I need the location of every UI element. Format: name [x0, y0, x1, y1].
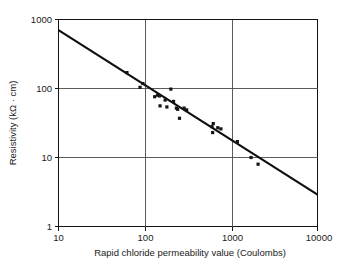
x-tick-label-100: 100 [138, 232, 154, 243]
data-point [211, 131, 214, 134]
x-tick-label-1000: 1000 [222, 232, 243, 243]
y-tick-label-100: 100 [36, 83, 52, 94]
y-tick-label-1000: 1000 [31, 14, 52, 25]
y-tick-label-1: 1 [47, 221, 52, 232]
data-point [216, 126, 219, 129]
data-point [169, 88, 172, 91]
data-point [236, 140, 239, 143]
data-point [249, 156, 252, 159]
y-axis-title: Resistivity (kΩ · cm) [7, 81, 18, 166]
data-point [178, 117, 181, 120]
data-point [210, 125, 213, 128]
data-point [219, 127, 222, 130]
data-point [212, 122, 215, 125]
data-point [141, 82, 144, 85]
y-tick-label-10: 10 [41, 152, 52, 163]
data-point [172, 100, 175, 103]
data-point [158, 94, 161, 97]
data-point [153, 95, 156, 98]
data-point [158, 104, 161, 107]
data-point [138, 86, 141, 89]
chart-canvas: 1000 100 10 1 10 100 1000 10000 Rapid ch… [0, 0, 346, 265]
data-point [256, 163, 259, 166]
data-point [164, 98, 167, 101]
chart-figure: 1000 100 10 1 10 100 1000 10000 Rapid ch… [0, 0, 346, 265]
x-tick-label-10000: 10000 [306, 232, 332, 243]
x-tick-label-10: 10 [53, 232, 64, 243]
x-axis-title: Rapid chloride permeability value (Coulo… [94, 247, 286, 258]
data-point [176, 108, 179, 111]
data-point [165, 105, 168, 108]
data-point [185, 108, 188, 111]
data-point [125, 71, 128, 74]
